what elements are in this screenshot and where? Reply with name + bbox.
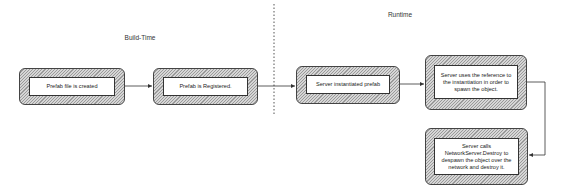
node-text: Prefab file is created — [29, 77, 115, 96]
node-text: Prefab is Registered. — [163, 77, 248, 96]
node-prefab-created: Prefab file is created — [19, 68, 125, 105]
phase-label-runtime: Runtime — [388, 11, 412, 18]
node-server-spawn: Server uses the reference to the instant… — [425, 55, 527, 110]
node-server-destroy: Server calls NetworkServer.Destroy to de… — [425, 128, 528, 185]
edge-spawn-to-destroy — [527, 82, 545, 155]
node-text: Server instantiated prefab — [306, 75, 390, 94]
phase-label-build-time: Build-Time — [125, 34, 156, 41]
node-prefab-registered: Prefab is Registered. — [153, 68, 258, 105]
node-server-instantiated: Server instantiated prefab — [296, 66, 400, 104]
node-text: Server calls NetworkServer.Destroy to de… — [434, 138, 519, 175]
node-text: Server uses the reference to the instant… — [434, 65, 518, 99]
